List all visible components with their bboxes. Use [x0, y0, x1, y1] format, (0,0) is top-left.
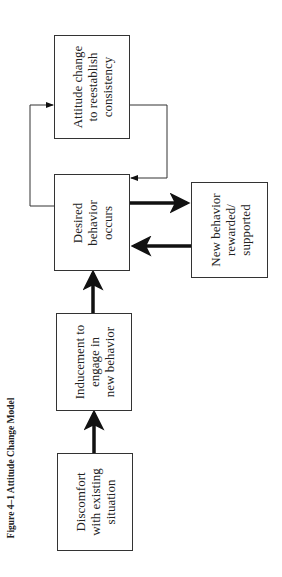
node-label-line: with existing [88, 468, 103, 536]
node-discomfort: Discomfort with existing situation [57, 453, 133, 551]
node-label-line: to reestablish [85, 46, 100, 129]
figure-caption: Figure 4–1 Attitude Change Model [6, 398, 16, 539]
node-label-line: rewarded/ [222, 193, 237, 266]
node-label-line: situation [103, 468, 118, 536]
node-label-line: behavior [85, 200, 100, 245]
node-label-line: Attitude change [70, 46, 85, 129]
node-new-behavior-rewarded: New behavior rewarded/ supported [191, 182, 268, 278]
arrow-attitude-to-desired [129, 105, 167, 178]
node-label-line: occurs [100, 200, 115, 245]
node-label-line: consistency [100, 46, 115, 129]
node-desired-behavior: Desired behavior occurs [54, 174, 130, 271]
node-label-line: Inducement to [72, 325, 87, 400]
arrow-desired-to-attitude [30, 105, 54, 206]
node-label-line: Desired [70, 200, 85, 245]
node-label-line: Discomfort [73, 468, 88, 536]
node-inducement: Inducement to engage in new behavior [56, 313, 132, 411]
connectors [0, 0, 282, 577]
node-label-line: supported [237, 193, 252, 266]
node-label-line: new behavior [102, 325, 117, 400]
node-label-line: engage in [87, 325, 102, 400]
node-label-line: New behavior [207, 193, 222, 266]
node-attitude-change: Attitude change to reestablish consisten… [54, 35, 130, 139]
